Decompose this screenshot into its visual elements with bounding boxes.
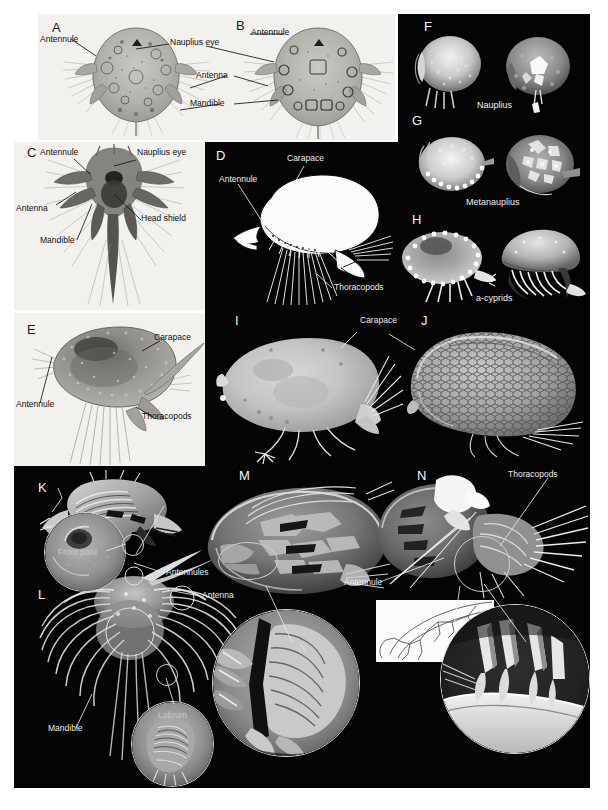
- acyprid-h-right-sem: [494, 224, 586, 304]
- plate-letter-c: C: [27, 146, 37, 159]
- cyprid-d-drawing: [223, 164, 395, 306]
- cyprid-i-sem: [215, 330, 405, 464]
- n-magnified-source-circle: [454, 536, 510, 592]
- plate-letter-i: I: [235, 314, 239, 327]
- plate-letter-h: H: [412, 213, 422, 226]
- m-magnified-source-circle: [218, 542, 278, 580]
- plate-letter-d: D: [216, 149, 226, 162]
- plate-letter-g: G: [412, 114, 423, 127]
- figure-plate: A B Antennule Nauplius eye Antennule Ant…: [0, 0, 608, 810]
- nauplius-f-right-sem: [496, 32, 578, 114]
- label-d-carapace: Carapace: [287, 154, 324, 163]
- panel-i-j: I J Carapace: [205, 310, 590, 466]
- inset-labrum-source-circle: [156, 664, 178, 686]
- panel-f-g-h: F G H Nauplius Metanauplius a-cyprids: [398, 14, 590, 310]
- inset-n-magnified: [440, 604, 590, 754]
- panel-c: C Antennule Nauplius eye Antenna Head sh…: [14, 142, 205, 310]
- ostracod-j-sem: [405, 326, 585, 458]
- panel-e: E Carapace Antennule Thoracopods: [14, 313, 205, 466]
- metanauplius-c-specimen: [44, 144, 184, 308]
- panel-k-l-m-n: K L M N Front pore Antennules Antenna Ma…: [14, 466, 590, 788]
- nauplius-a-specimen: [62, 22, 212, 138]
- label-c-antenna: Antenna: [16, 204, 48, 213]
- inset-front-pore-source-circle: [122, 534, 144, 556]
- nauplius-b-specimen: [244, 20, 394, 140]
- label-i-carapace: Carapace: [360, 316, 397, 325]
- specimen-m-sem: [196, 478, 396, 604]
- panel-a-b: A B Antennule Nauplius eye Antennule Ant…: [38, 14, 395, 140]
- nauplius-f-left-sem: [410, 30, 488, 110]
- inset-labrum: [131, 701, 214, 787]
- cyprid-e-specimen: [30, 319, 205, 465]
- inset-m-magnified: [212, 609, 360, 757]
- panel-d: D Carapace Antennule Thoracopods: [205, 142, 398, 310]
- acyprid-h-left-sem: [398, 226, 496, 302]
- plate-letter-a: A: [52, 21, 61, 34]
- metanauplius-g-right-sem: [498, 126, 582, 202]
- inset-front-pore: [44, 512, 126, 592]
- metanauplius-g-left-sem: [414, 130, 494, 200]
